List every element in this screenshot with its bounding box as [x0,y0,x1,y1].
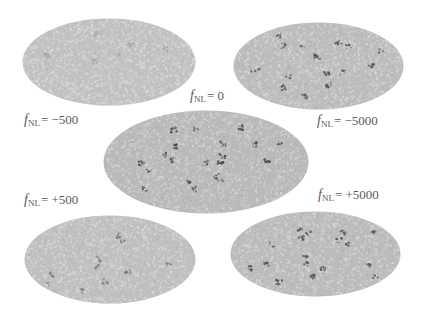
sky-map-ellipse [24,215,196,304]
sky-map-ellipse [103,110,309,214]
label-fnl-minus-5000: fNL= −5000 [317,114,378,128]
sky-map-fnl-plus-500 [24,215,196,304]
sky-map-fnl-plus-5000 [230,211,401,297]
sky-map-fnl-0 [103,110,309,214]
label-fnl-0: fNL= 0 [190,89,224,103]
label-fnl-plus-500: fNL= +500 [24,193,78,207]
figure-canvas: fNL= −500 fNL= −5000 fNL= 0 fNL= +500 fN… [0,0,424,318]
sky-map-ellipse [230,211,401,297]
sky-map-fnl-minus-500 [22,18,196,106]
sky-map-ellipse [22,18,196,106]
sky-map-ellipse [233,22,404,110]
label-fnl-plus-5000: fNL= +5000 [318,188,379,202]
sky-map-fnl-minus-5000 [233,22,404,110]
label-fnl-minus-500: fNL= −500 [24,113,78,127]
